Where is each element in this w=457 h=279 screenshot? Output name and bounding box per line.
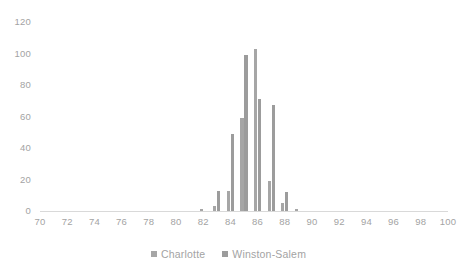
x-tick-label: 82: [198, 216, 209, 228]
chart-bar: [281, 203, 284, 211]
chart-container: 120100806040200 707274767880828486889092…: [0, 0, 457, 279]
legend-label: Charlotte: [161, 248, 205, 260]
x-axis-line: [40, 211, 448, 212]
chart-bar: [254, 49, 257, 211]
y-axis-tick-labels: 120100806040200: [0, 0, 38, 215]
x-tick-label: 76: [116, 216, 127, 228]
y-tick-label: 40: [20, 143, 31, 153]
x-tick-label: 84: [225, 216, 236, 228]
chart-bar: [268, 181, 271, 211]
legend-item[interactable]: Winston-Salem: [222, 248, 306, 260]
x-axis-tick-labels: 707274767880828486889092949698100: [40, 216, 448, 232]
y-tick-label: 20: [20, 175, 31, 185]
y-tick-label: 120: [15, 17, 31, 27]
x-tick-label: 98: [415, 216, 426, 228]
y-tick-label: 100: [15, 49, 31, 59]
chart-bar: [231, 134, 234, 211]
chart-bar: [244, 55, 247, 211]
chart-legend: CharlotteWinston-Salem: [0, 248, 457, 260]
x-tick-label: 72: [62, 216, 73, 228]
x-tick-label: 94: [361, 216, 372, 228]
y-tick-label: 0: [26, 206, 31, 216]
x-tick-label: 100: [440, 216, 456, 228]
x-tick-label: 92: [334, 216, 345, 228]
chart-bar: [227, 191, 230, 211]
legend-item[interactable]: Charlotte: [151, 248, 205, 260]
chart-bar: [258, 99, 261, 211]
chart-bar: [240, 118, 243, 211]
x-tick-label: 96: [388, 216, 399, 228]
x-tick-label: 74: [89, 216, 100, 228]
y-tick-label: 60: [20, 112, 31, 122]
chart-bar: [217, 191, 220, 211]
plot-area: [40, 22, 448, 211]
x-tick-label: 70: [35, 216, 46, 228]
x-tick-label: 86: [252, 216, 263, 228]
chart-bar: [285, 192, 288, 211]
y-tick-label: 80: [20, 80, 31, 90]
chart-bar: [272, 105, 275, 211]
x-tick-label: 80: [171, 216, 182, 228]
legend-swatch-icon: [222, 251, 228, 257]
bars-layer: [40, 22, 448, 211]
x-tick-label: 90: [307, 216, 318, 228]
x-tick-label: 88: [279, 216, 290, 228]
x-tick-label: 78: [143, 216, 154, 228]
legend-label: Winston-Salem: [232, 248, 306, 260]
legend-swatch-icon: [151, 251, 157, 257]
